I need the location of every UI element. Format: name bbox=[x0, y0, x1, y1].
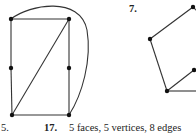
exercise-5-number: 5. bbox=[1, 123, 9, 134]
exercise-17-number: 17. bbox=[44, 123, 57, 134]
figure-7-vertices bbox=[148, 5, 196, 93]
exercise-17-answer: 5 faces, 5 vertices, 8 edges bbox=[69, 123, 181, 134]
graph-figures bbox=[0, 0, 196, 135]
curved-edge bbox=[11, 6, 88, 115]
exercise-7-number: 7. bbox=[129, 4, 137, 15]
figure-7-graph bbox=[150, 7, 196, 91]
figure-5-graph bbox=[11, 6, 88, 115]
